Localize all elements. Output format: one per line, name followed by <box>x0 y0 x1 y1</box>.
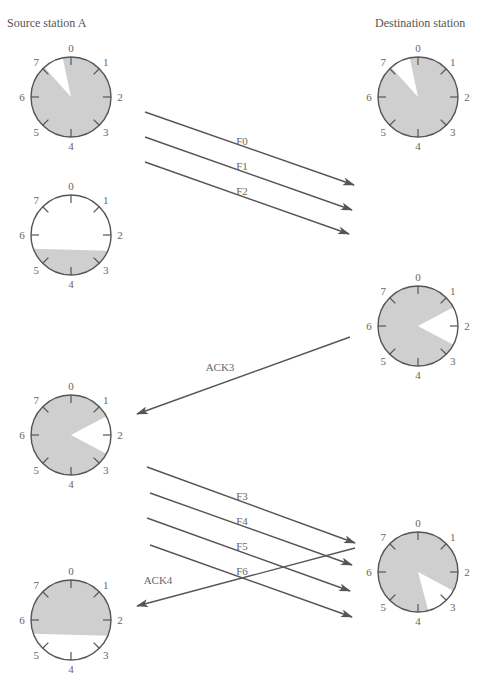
sequence-label: 6 <box>19 91 25 103</box>
sequence-label: 6 <box>366 320 372 332</box>
sequence-label: 5 <box>381 601 387 613</box>
sequence-label: 4 <box>68 278 74 290</box>
sequence-label: 3 <box>450 355 456 367</box>
frame-label: F6 <box>236 565 248 577</box>
frame-label: F2 <box>236 185 248 197</box>
sequence-label: 4 <box>68 663 74 675</box>
window-clock-dest-2: 01234567 <box>366 271 470 381</box>
sequence-label: 3 <box>103 649 109 661</box>
sequence-label: 7 <box>34 194 40 206</box>
frame-label: F5 <box>236 540 248 552</box>
sequence-label: 1 <box>103 579 109 591</box>
sequence-label: 2 <box>464 566 470 578</box>
window-clock-dest-3: 01234567 <box>366 517 470 627</box>
arrow-line <box>150 493 352 565</box>
sequence-label: 1 <box>103 394 109 406</box>
arrow-line <box>137 337 350 414</box>
sequence-label: 5 <box>34 264 40 276</box>
sequence-label: 0 <box>68 565 74 577</box>
sequence-label: 1 <box>450 56 456 68</box>
sequence-label: 3 <box>103 464 109 476</box>
sequence-label: 0 <box>415 42 421 54</box>
sequence-label: 5 <box>381 126 387 138</box>
sequence-label: 5 <box>34 126 40 138</box>
sequence-label: 5 <box>34 649 40 661</box>
sequence-label: 4 <box>415 140 421 152</box>
arrow-ack4: ACK4 <box>137 548 355 606</box>
sequence-label: 7 <box>34 56 40 68</box>
frame-label: F4 <box>236 515 248 527</box>
sequence-label: 5 <box>34 464 40 476</box>
window-gap <box>31 195 111 251</box>
sequence-label: 0 <box>415 517 421 529</box>
arrow-f3: F3 <box>147 467 355 543</box>
arrow-ack3: ACK3 <box>137 337 350 414</box>
sequence-label: 6 <box>366 566 372 578</box>
frame-label: F0 <box>236 135 248 147</box>
sequence-label: 7 <box>381 531 387 543</box>
frame-label: ACK3 <box>206 361 235 373</box>
sequence-label: 4 <box>68 478 74 490</box>
sequence-label: 6 <box>19 229 25 241</box>
sequence-label: 6 <box>19 429 25 441</box>
sequence-label: 2 <box>464 91 470 103</box>
sequence-label: 0 <box>68 380 74 392</box>
sequence-label: 2 <box>117 614 123 626</box>
sequence-label: 3 <box>450 126 456 138</box>
window-clock-dest-1: 01234567 <box>366 42 470 152</box>
sequence-label: 1 <box>103 56 109 68</box>
sequence-label: 4 <box>415 615 421 627</box>
sequence-label: 1 <box>450 285 456 297</box>
sequence-label: 2 <box>464 320 470 332</box>
sequence-label: 1 <box>450 531 456 543</box>
arrow-f4: F4 <box>150 493 352 565</box>
sequence-label: 7 <box>381 56 387 68</box>
window-clock-source-3: 01234567 <box>19 380 123 490</box>
sequence-label: 0 <box>68 180 74 192</box>
arrow-line <box>147 467 355 543</box>
sequence-label: 7 <box>381 285 387 297</box>
sequence-label: 4 <box>415 369 421 381</box>
sequence-label: 2 <box>117 91 123 103</box>
sequence-label: 3 <box>450 601 456 613</box>
window-clock-source-2: 01234567 <box>19 180 123 290</box>
window-clock-source-1: 01234567 <box>19 42 123 152</box>
sequence-label: 7 <box>34 394 40 406</box>
frame-label: F3 <box>236 490 248 502</box>
sequence-label: 6 <box>366 91 372 103</box>
sequence-label: 6 <box>19 614 25 626</box>
sequence-label: 0 <box>415 271 421 283</box>
sequence-label: 5 <box>381 355 387 367</box>
sliding-window-diagram: 0123456701234567012345670123456701234567… <box>0 0 491 693</box>
sequence-label: 7 <box>34 579 40 591</box>
sequence-label: 1 <box>103 194 109 206</box>
window-clock-source-4: 01234567 <box>19 565 123 675</box>
sequence-label: 2 <box>117 429 123 441</box>
sequence-label: 3 <box>103 264 109 276</box>
frame-arrows: F0F1F2ACK3F3F4F5F6ACK4 <box>137 112 355 617</box>
sequence-label: 0 <box>68 42 74 54</box>
sequence-label: 4 <box>68 140 74 152</box>
sequence-label: 2 <box>117 229 123 241</box>
sequence-label: 3 <box>103 126 109 138</box>
frame-label: F1 <box>236 160 248 172</box>
frame-label: ACK4 <box>144 574 173 586</box>
